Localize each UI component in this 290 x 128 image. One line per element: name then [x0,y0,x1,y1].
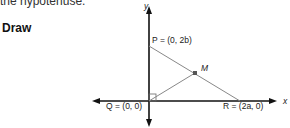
y-axis-label: y [143,1,149,11]
x-axis-arrow-left-icon [92,98,100,104]
y-axis [146,6,152,127]
coordinate-diagram: y x P = (0, 2b) M Q = (0, 0) R = (2a, 0) [0,0,290,128]
y-axis-arrow-down-icon [146,119,152,127]
point-q-label: Q = (0, 0) [106,101,142,111]
point-m-marker [193,71,197,75]
point-r-label: R = (2a, 0) [223,101,264,111]
point-p-label: P = (0, 2b) [152,35,192,45]
segment-qm [149,73,195,101]
point-m-label: M [201,63,209,73]
x-axis-arrow-right-icon [269,98,277,104]
x-axis-label: x [282,96,288,106]
